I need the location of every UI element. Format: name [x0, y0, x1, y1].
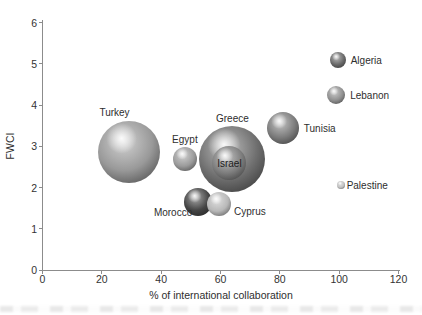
y-tick-label: 6	[11, 17, 37, 29]
y-tick-mark	[39, 187, 43, 188]
point-label-tunisia: Tunisia	[304, 122, 336, 133]
y-axis-title: FWCI	[4, 76, 16, 216]
bubble-algeria	[330, 52, 346, 68]
point-label-palestine: Palestine	[347, 180, 388, 191]
bubble-chart-figure: 0123456020406080100120 TurkeyEgyptGreece…	[0, 0, 422, 315]
bubble-tunisia	[267, 112, 299, 144]
bubble-turkey	[98, 121, 160, 183]
cropped-caption-artifact	[0, 306, 422, 312]
x-tick-label: 40	[145, 273, 177, 285]
x-tick-label: 120	[383, 273, 415, 285]
y-tick-mark	[39, 146, 43, 147]
point-label-turkey: Turkey	[99, 107, 129, 118]
x-tick-label: 60	[205, 273, 237, 285]
point-label-morocco: Morocco	[154, 206, 192, 217]
x-tick-label: 100	[323, 273, 355, 285]
y-tick-mark	[39, 105, 43, 106]
bubble-egypt	[173, 147, 197, 171]
x-tick-label: 0	[27, 273, 59, 285]
x-tick-label: 20	[86, 273, 118, 285]
point-label-lebanon: Lebanon	[350, 89, 389, 100]
y-tick-label: 1	[11, 223, 37, 235]
x-axis-title: % of international collaboration	[42, 289, 400, 301]
point-label-cyprus: Cyprus	[234, 206, 266, 217]
bubble-lebanon	[327, 86, 345, 104]
bubble-cyprus	[207, 192, 231, 216]
y-tick-mark	[39, 228, 43, 229]
y-tick-mark	[39, 63, 43, 64]
point-label-greece: Greece	[216, 113, 249, 124]
bubble-palestine	[337, 181, 345, 189]
point-label-egypt: Egypt	[172, 134, 198, 145]
y-tick-label: 5	[11, 58, 37, 70]
point-label-algeria: Algeria	[351, 54, 382, 65]
y-tick-mark	[39, 22, 43, 23]
x-tick-label: 80	[264, 273, 296, 285]
point-label-israel: Israel	[217, 157, 241, 168]
x-axis-line	[42, 270, 400, 271]
